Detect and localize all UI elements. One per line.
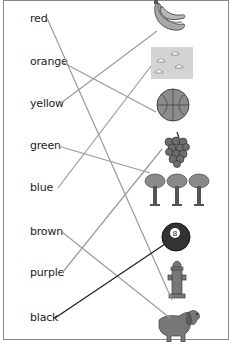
line-black-eight-ball: [55, 244, 165, 318]
line-brown-dog: [62, 232, 170, 318]
match-lines: [0, 0, 233, 346]
line-orange-basketball: [62, 62, 156, 112]
line-yellow-banana: [61, 31, 157, 103]
line-purple-grapes: [62, 149, 162, 273]
